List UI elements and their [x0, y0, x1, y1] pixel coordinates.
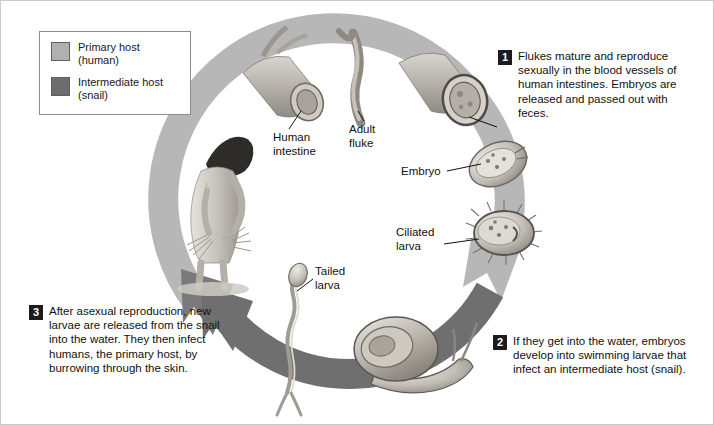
step-1-badge: 1 — [498, 50, 512, 65]
callout-leader-lines — [289, 111, 497, 291]
callout-ciliated-larva-line1: Ciliated — [396, 226, 434, 238]
callout-ciliated-larva: Ciliated larva — [396, 226, 434, 253]
legend-item-intermediate-host: Intermediate host (snail) — [51, 76, 190, 102]
step-3-text: After asexual reproduction, new larvae a… — [29, 304, 239, 375]
callout-adult-fluke: Adult fluke — [349, 123, 375, 150]
legend-label-primary-host: Primary host (human) — [78, 41, 140, 67]
life-cycle-figure: Primary host (human) Intermediate host (… — [0, 0, 714, 425]
legend-label-intermediate-host-main: Intermediate host — [78, 76, 163, 88]
legend-swatch-primary-host — [51, 42, 70, 61]
legend-label-intermediate-host-sub: (snail) — [78, 89, 163, 102]
callout-adult-fluke-line1: Adult — [349, 123, 375, 135]
step-1-text: Flukes mature and reproduce sexually in … — [498, 49, 694, 120]
legend: Primary host (human) Intermediate host (… — [39, 31, 191, 115]
step-2-badge: 2 — [493, 335, 507, 350]
callout-embryo: Embryo — [401, 165, 441, 179]
callout-adult-fluke-line2: fluke — [349, 137, 373, 149]
legend-item-primary-host: Primary host (human) — [51, 41, 190, 67]
callout-ciliated-larva-line2: larva — [396, 240, 421, 252]
legend-label-intermediate-host: Intermediate host (snail) — [78, 76, 163, 102]
callout-tailed-larva: Tailed larva — [315, 265, 345, 292]
intestine-cutaway-illustration — [399, 53, 492, 129]
step-3-badge: 3 — [29, 305, 43, 320]
legend-label-primary-host-sub: (human) — [78, 54, 140, 67]
callout-tailed-larva-line2: larva — [315, 279, 340, 291]
callout-embryo-line1: Embryo — [401, 165, 441, 177]
callout-human-intestine-line2: intestine — [273, 145, 316, 157]
step-3-block: 3 After asexual reproduction, new larvae… — [29, 304, 239, 375]
tailed-larva-illustration — [277, 261, 311, 415]
adult-fluke-illustration — [339, 31, 361, 123]
legend-swatch-intermediate-host — [51, 77, 70, 96]
legend-label-primary-host-main: Primary host — [78, 41, 140, 53]
callout-tailed-larva-line1: Tailed — [315, 265, 345, 277]
step-1-block: 1 Flukes mature and reproduce sexually i… — [498, 49, 694, 120]
step-2-block: 2 If they get into the water, embryos de… — [493, 334, 693, 377]
callout-human-intestine: Human intestine — [273, 131, 316, 158]
callout-human-intestine-line1: Human — [273, 131, 310, 143]
step-2-text: If they get into the water, embryos deve… — [493, 334, 693, 377]
